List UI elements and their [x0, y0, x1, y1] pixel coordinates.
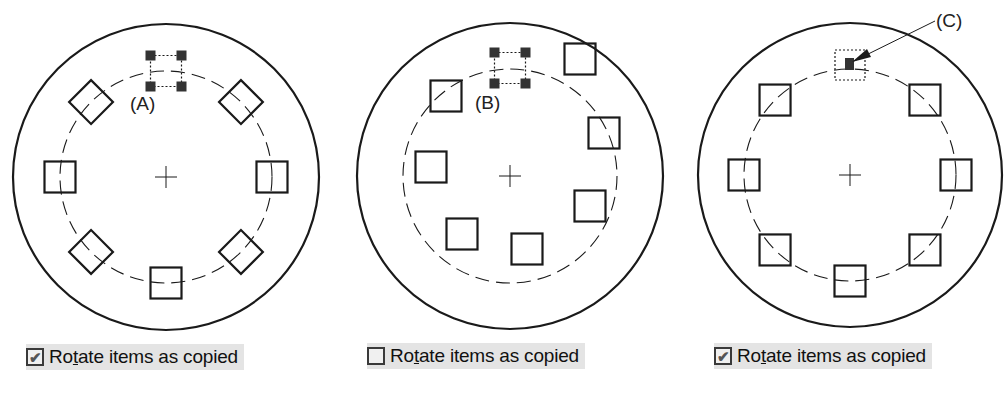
checkbox-c[interactable]: ✔ [714, 347, 732, 365]
array-item [69, 80, 113, 124]
array-item [447, 219, 478, 250]
array-item [219, 230, 263, 274]
array-item [151, 268, 182, 299]
array-item [565, 44, 596, 75]
selected-source-item-b-grip-handle [521, 48, 531, 58]
rotate-items-option-c[interactable]: ✔ Rotate items as copied [714, 343, 932, 369]
checkmark-icon: ✔ [717, 349, 730, 364]
array-item [760, 85, 791, 116]
array-item [219, 80, 263, 124]
array-item [835, 266, 866, 297]
selected-source-item-b-grip-handle [490, 48, 500, 58]
selected-source-item-b-grip-handle [490, 79, 500, 89]
array-item [909, 85, 940, 116]
selected-source-item-b-grip-handle [521, 79, 531, 89]
array-item [729, 160, 760, 191]
rotate-items-label-a: Rotate items as copied [49, 346, 238, 368]
selected-source-item-a-grip-handle [146, 51, 156, 61]
checkbox-a[interactable]: ✔ [26, 348, 44, 366]
base-point-grip-c [845, 58, 854, 70]
selected-source-item-a-grip-handle [146, 82, 156, 92]
callout-label-a: (A) [130, 93, 155, 114]
array-item [589, 118, 620, 149]
rotate-items-label-c: Rotate items as copied [737, 345, 926, 367]
rotate-items-option-a[interactable]: ✔ Rotate items as copied [26, 344, 244, 370]
array-item [512, 234, 543, 265]
checkmark-icon: ✔ [29, 350, 42, 365]
callout-label-b: (B) [475, 92, 500, 113]
callout-label-c: (C) [936, 10, 962, 31]
array-item [431, 81, 462, 112]
arrowhead-icon [852, 49, 871, 62]
selected-source-item-a-grip-handle [177, 82, 187, 92]
selected-source-item-a-grip-handle [177, 51, 187, 61]
array-item [575, 191, 606, 222]
drawing-canvas: (A)(B)(C) [0, 0, 1007, 394]
array-item [45, 162, 76, 193]
rotate-items-label-b: Rotate items as copied [390, 345, 579, 367]
checkbox-b[interactable] [367, 347, 385, 365]
rotate-items-option-b[interactable]: Rotate items as copied [367, 343, 585, 369]
array-item [416, 152, 447, 183]
array-item [760, 234, 791, 265]
array-item [909, 234, 940, 265]
array-item [69, 230, 113, 274]
polar-array-comparison-figure: (A)(B)(C) ✔ Rotate items as copied Rotat… [0, 0, 1007, 394]
